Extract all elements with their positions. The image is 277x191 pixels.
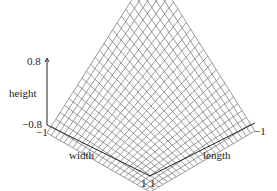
surface-plot [0,0,277,191]
width-tick-end: 1 [141,177,147,189]
length-axis-label: length [203,149,231,161]
length-tick-start: 1 [150,177,156,189]
z-tick-top: 0.8 [27,55,41,67]
surface-mesh [47,0,255,191]
width-axis-label: width [69,149,94,161]
z-axis-label: height [9,87,37,99]
length-tick-end: −1 [254,125,266,137]
width-tick-start: −1 [36,126,48,138]
